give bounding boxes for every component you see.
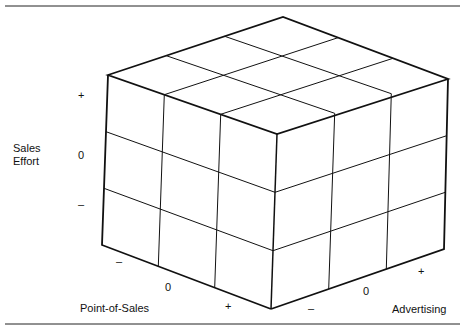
sales-effort-label: Sales Effort [13,142,41,168]
point-of-sales-tick-plus: + [225,300,231,312]
sales-effort-label-line1: Sales [13,142,41,155]
cube-diagram [0,0,469,333]
sales-effort-label-line2: Effort [13,155,41,168]
advertising-tick-plus: + [418,265,424,277]
advertising-tick-zero: 0 [363,285,369,297]
sales-effort-tick-zero: 0 [78,149,84,161]
point-of-sales-tick-zero: 0 [165,281,171,293]
point-of-sales-tick-minus: – [116,255,122,267]
sales-effort-tick-plus: + [78,89,84,101]
sales-effort-tick-minus: – [78,198,84,210]
point-of-sales-label: Point-of-Sales [80,302,149,315]
advertising-label: Advertising [392,303,446,316]
cube [102,17,448,309]
advertising-tick-minus: – [308,302,314,314]
